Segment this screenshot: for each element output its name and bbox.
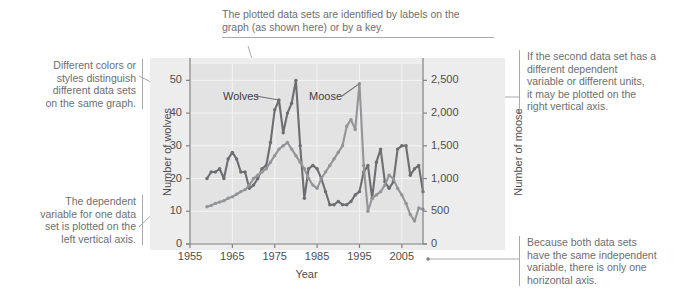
series-label-moose: Moose xyxy=(309,90,342,102)
x-axis-title: Year xyxy=(267,268,347,280)
y-tick-label: 20 xyxy=(170,172,182,184)
annotation-right-vertical-axis: If the second data set has a different d… xyxy=(519,50,687,113)
x-tick-label: 1955 xyxy=(178,250,202,262)
y-tick-label: 50 xyxy=(170,73,182,85)
x-tick-label: 1965 xyxy=(220,250,244,262)
y2-tick-label: 1,000 xyxy=(431,172,459,184)
x-tick-label: 1985 xyxy=(305,250,329,262)
x-tick-label: 1975 xyxy=(262,250,286,262)
line-chart: Number of wolves Number of moose Year Wo… xyxy=(150,50,510,290)
y2-axis-title: Number of moose xyxy=(512,97,524,207)
series-moose xyxy=(205,82,424,223)
x-tick-label: 2005 xyxy=(390,250,414,262)
x-tick-label: 1995 xyxy=(347,250,371,262)
y2-tick-label: 2,500 xyxy=(431,73,459,85)
chart-canvas xyxy=(150,50,510,290)
y2-tick-label: 0 xyxy=(431,237,437,249)
annotation-horizontal-axis: Because both data sets have the same ind… xyxy=(519,236,687,286)
series-label-leaders xyxy=(256,84,359,100)
y-tick-label: 10 xyxy=(170,204,182,216)
y-tick-label: 30 xyxy=(170,139,182,151)
y2-tick-label: 2,000 xyxy=(431,106,459,118)
y2-tick-label: 500 xyxy=(431,204,449,216)
figure-root: The plotted data sets are identified by … xyxy=(0,0,691,308)
annotation-left-vertical-axis: The dependent variable for one data set … xyxy=(16,195,143,245)
y2-tick-label: 1,500 xyxy=(431,139,459,151)
annotation-data-set-labels: The plotted data sets are identified by … xyxy=(222,8,494,38)
series-label-wolves: Wolves xyxy=(223,90,259,102)
y-tick-label: 40 xyxy=(170,106,182,118)
y-tick-label: 0 xyxy=(176,237,182,249)
annotation-colors-styles: Different colors or styles distinguish d… xyxy=(18,59,143,109)
